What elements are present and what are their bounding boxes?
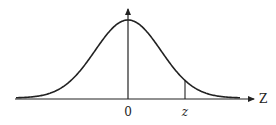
z-marker-label: z [181,105,189,119]
normal-distribution-diagram: Z 0 z [0,0,276,125]
origin-label: 0 [124,105,132,119]
x-axis-label: Z [259,92,267,106]
diagram-svg: Z 0 z [0,0,276,125]
